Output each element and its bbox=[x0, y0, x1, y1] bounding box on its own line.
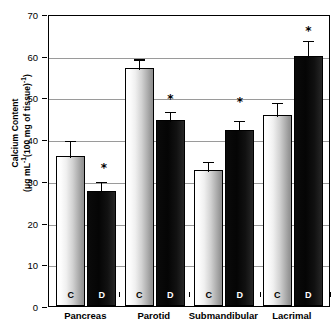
x-axis-tick-mark bbox=[119, 292, 120, 297]
x-axis-group-label-lacrimal: Lacrimal bbox=[272, 310, 311, 321]
y-axis-tick-mark bbox=[42, 98, 47, 99]
y-axis-tick-mark bbox=[42, 15, 47, 16]
x-axis-tick-mark bbox=[260, 292, 261, 297]
x-axis-tick-mark bbox=[48, 292, 49, 297]
y-axis-tick-mark bbox=[42, 224, 47, 225]
y-axis-tick-mark bbox=[42, 140, 47, 141]
y-axis-tick-mark bbox=[42, 307, 47, 308]
x-axis-tick-mark bbox=[330, 292, 331, 297]
y-axis-tick-mark bbox=[42, 182, 47, 183]
x-axis-group-labels: PancreasParotidSubmandibularLacrimal bbox=[48, 310, 330, 330]
x-axis-tick-mark bbox=[189, 292, 190, 297]
x-axis-group-label-submandibular: Submandibular bbox=[189, 310, 258, 321]
x-axis-group-label-parotid: Parotid bbox=[137, 310, 170, 321]
calcium-content-bar-chart: Calcium Content (μg mL-1(100 mg of tissu… bbox=[0, 0, 335, 331]
x-axis-ticks bbox=[0, 0, 335, 331]
x-axis-group-label-pancreas: Pancreas bbox=[64, 310, 106, 321]
y-axis-tick-mark bbox=[42, 57, 47, 58]
y-axis-tick-mark bbox=[42, 265, 47, 266]
